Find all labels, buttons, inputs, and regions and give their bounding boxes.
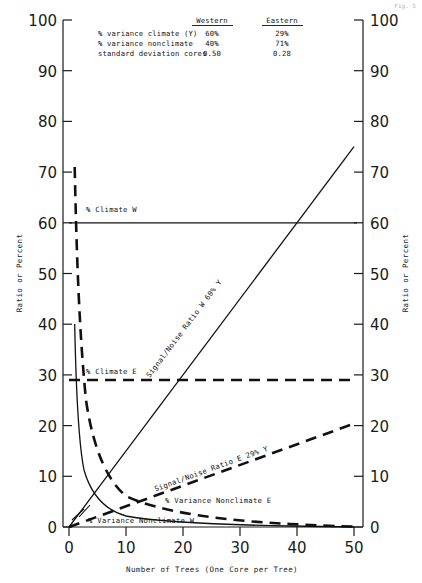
table-cell-eastern: 71% — [275, 39, 289, 48]
y-tick-label-left: 40 — [38, 316, 57, 334]
leader-nonclimate-w-2 — [72, 509, 84, 520]
y-tick-label-right: 100 — [370, 12, 399, 30]
table-row-label: % variance nonclimate — [98, 39, 193, 48]
y-tick-label-right: 0 — [370, 519, 380, 537]
label-snr-w: Signal/Noise Ratio W 60% Y — [144, 277, 224, 379]
y-tick-label-left: 90 — [38, 63, 57, 81]
y-tick-label-right: 70 — [370, 164, 389, 182]
label-snr-e: Signal/Noise Ratio E 29% Y — [153, 444, 269, 494]
x-tick-label: 40 — [287, 539, 306, 557]
table-row-label: % variance climate (Y) — [98, 29, 198, 38]
x-tick-label: 50 — [344, 539, 363, 557]
y-tick-label-right: 90 — [370, 63, 389, 81]
y-tick-label-right: 50 — [370, 266, 389, 284]
table-row: % variance nonclimate 40% 71% — [98, 39, 289, 48]
y-tick-label-right: 30 — [370, 367, 389, 385]
y-tick-label-left: 30 — [38, 367, 57, 385]
table-row-label: standard deviation cores — [98, 49, 207, 58]
y-tick-label-left: 50 — [38, 266, 57, 284]
figure-corner-note: Fig. 5 — [394, 2, 416, 10]
y-tick-label-left: 100 — [28, 12, 57, 30]
table-cell-western: 40% — [205, 39, 219, 48]
label-climate-e: % Climate E — [86, 367, 137, 376]
y-axis-right-title: Ratio or Percent — [401, 234, 410, 313]
series-nonclimate-e — [75, 167, 354, 527]
y-tick-label-right: 20 — [370, 418, 389, 436]
table-cell-eastern: 0.28 — [273, 49, 291, 58]
table-row: % variance climate (Y) 60% 29% — [98, 29, 289, 38]
table-cell-western: 0.50 — [203, 49, 221, 58]
table-cell-eastern: 29% — [275, 29, 289, 38]
x-tick-label: 20 — [173, 539, 192, 557]
chart-svg: Western Eastern % variance climate (Y) 6… — [0, 0, 422, 583]
y-tick-label-left: 70 — [38, 164, 57, 182]
y-tick-label-right: 40 — [370, 316, 389, 334]
x-tick-label: 10 — [116, 539, 135, 557]
x-tick-label: 0 — [64, 539, 74, 557]
y-axis-right: 100 90 80 70 60 50 40 30 20 10 0 Ratio o… — [354, 12, 410, 537]
table-cell-western: 60% — [205, 29, 219, 38]
y-tick-label-left: 60 — [38, 215, 57, 233]
summary-table: Western Eastern % variance climate (Y) 6… — [98, 16, 303, 58]
x-axis-title: Number of Trees (One Core per Tree) — [126, 565, 298, 574]
x-tick-label: 30 — [230, 539, 249, 557]
x-axis: 0 10 20 30 40 50 Number of Trees (One Co… — [63, 527, 364, 574]
y-tick-label-left: 20 — [38, 418, 57, 436]
series-snr-e — [69, 424, 354, 527]
table-header-western: Western — [196, 16, 228, 25]
label-nonclimate-w: % Variance Nonclimate W — [88, 516, 195, 525]
y-tick-label-left: 0 — [47, 519, 57, 537]
y-tick-label-right: 60 — [370, 215, 389, 233]
y-tick-label-right: 10 — [370, 468, 389, 486]
label-climate-w: % Climate W — [86, 205, 137, 214]
figure-panel: Western Eastern % variance climate (Y) 6… — [0, 0, 422, 583]
y-tick-label-left: 10 — [38, 468, 57, 486]
y-axis-left: 100 90 80 70 60 50 40 30 20 10 0 Ratio o… — [15, 12, 72, 537]
label-nonclimate-e: % Variance Nonclimate E — [165, 496, 271, 505]
table-row: standard deviation cores 0.50 0.28 — [98, 49, 291, 58]
y-axis-left-title: Ratio or Percent — [15, 234, 24, 313]
y-tick-label-left: 80 — [38, 113, 57, 131]
table-header-eastern: Eastern — [266, 16, 298, 25]
y-tick-label-right: 80 — [370, 113, 389, 131]
